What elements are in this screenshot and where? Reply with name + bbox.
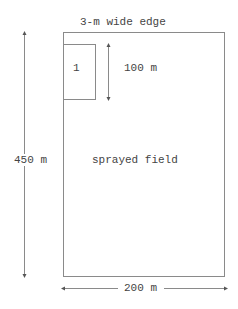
plot-number-label: 1 <box>73 62 80 74</box>
plot-height-label: 100 m <box>124 62 157 74</box>
plot-height-arrow <box>107 43 111 101</box>
field-height-label: 450 m <box>14 154 47 166</box>
field-width-label: 200 m <box>124 282 157 294</box>
edge-label: 3-m wide edge <box>80 16 166 28</box>
field-label: sprayed field <box>92 154 178 166</box>
